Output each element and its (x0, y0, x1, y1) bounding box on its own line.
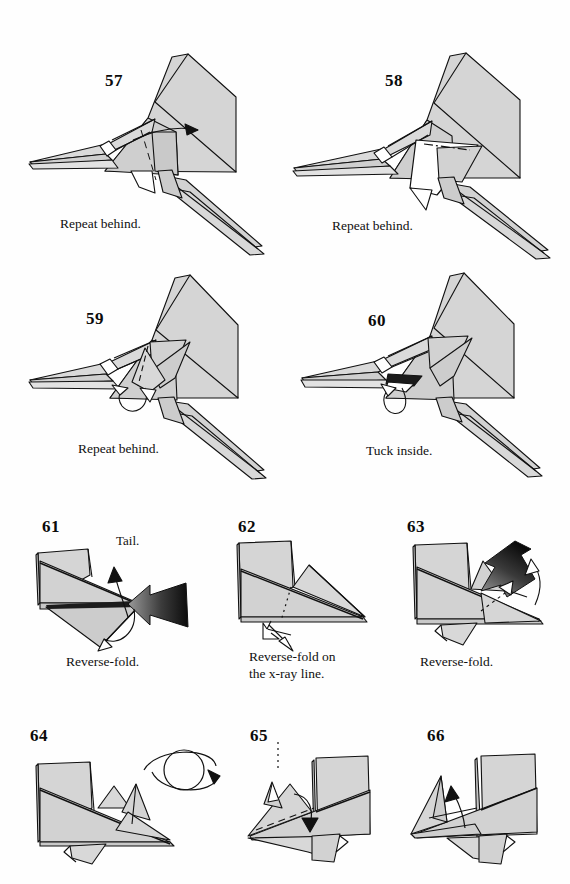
origami-figure-65 (200, 712, 385, 882)
step-panel-66: 66 (385, 712, 570, 882)
origami-figure-64 (10, 712, 220, 877)
step-panel-62: 62 (205, 505, 385, 695)
step-caption-57: Repeat behind. (60, 215, 141, 232)
origami-figure-63 (385, 505, 570, 670)
step-caption-59: Repeat behind. (78, 440, 159, 457)
origami-figure-66 (385, 712, 570, 882)
step-panel-59: 59 (0, 290, 285, 490)
step-caption-61: Reverse-fold. (66, 653, 139, 670)
step-panel-64: 64 (10, 712, 220, 877)
step-caption-58: Repeat behind. (332, 217, 413, 234)
step-panel-57: 57 (0, 40, 285, 290)
gradient-push-arrow-61 (128, 583, 188, 627)
step-caption-60: Tuck inside. (366, 442, 432, 459)
origami-figure-61 (10, 505, 205, 670)
step-panel-65: 65 (200, 712, 385, 882)
step-caption-62: Reverse-fold on the x-ray line. (249, 648, 336, 683)
outline-arrow-down-left-62 (263, 621, 293, 651)
step-caption-63: Reverse-fold. (420, 653, 493, 670)
step-panel-58: 58 (282, 40, 570, 290)
step-panel-63: 63 (385, 505, 570, 695)
origami-figure-62 (205, 505, 385, 665)
step-panel-61: 61 Tail. (10, 505, 205, 685)
step-panel-60: 60 (282, 290, 570, 490)
diagram-page: 57 (0, 0, 570, 884)
origami-figure-57 (0, 40, 285, 260)
origami-figure-58 (282, 40, 570, 260)
